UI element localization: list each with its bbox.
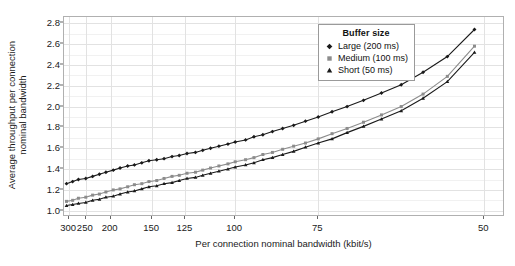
triangle-marker-icon <box>324 65 335 76</box>
y-axis-tick-label: 1.2 <box>34 183 60 194</box>
data-point-marker <box>217 144 221 148</box>
data-point-marker <box>177 154 181 158</box>
data-point-marker <box>345 105 349 109</box>
chart-figure: Average throughput per connection nomina… <box>0 0 515 266</box>
data-point-marker <box>201 169 204 172</box>
x-axis-tick-mark <box>151 216 152 219</box>
data-point-marker <box>252 135 256 139</box>
data-point-marker <box>281 127 285 131</box>
data-point-marker <box>178 174 181 177</box>
y-axis-tick-label: 1.4 <box>34 163 60 174</box>
y-axis-tick-label: 1.6 <box>34 142 60 153</box>
data-point-marker <box>400 105 403 108</box>
x-axis-tick-mark <box>234 216 235 219</box>
data-point-marker <box>226 142 230 146</box>
data-point-marker <box>77 197 80 200</box>
data-point-marker <box>155 158 159 162</box>
data-point-marker <box>65 182 69 186</box>
diamond-marker-icon <box>324 41 335 52</box>
legend-item-label: Short (50 ms) <box>338 65 393 75</box>
legend-item-label: Large (200 ms) <box>338 41 399 51</box>
legend-item-1[interactable]: Large (200 ms) <box>324 40 408 52</box>
x-axis-tick-label: 250 <box>77 222 93 233</box>
data-point-marker <box>304 119 308 123</box>
x-axis-title: Per connection nominal bandwidth (kbit/s… <box>63 238 504 249</box>
x-axis-tick-label: 125 <box>176 222 192 233</box>
data-point-marker <box>380 113 383 116</box>
data-point-marker <box>330 110 334 114</box>
data-point-marker <box>317 137 320 140</box>
data-point-marker <box>126 185 129 188</box>
x-axis-tick-label: 150 <box>143 222 159 233</box>
legend-item-label: Medium (100 ms) <box>338 53 408 63</box>
data-point-marker <box>71 180 75 184</box>
data-point-marker <box>65 200 68 203</box>
data-point-marker <box>194 150 198 154</box>
legend-item-2[interactable]: Medium (100 ms) <box>324 52 408 64</box>
legend-items: Large (200 ms)Medium (100 ms)Short (50 m… <box>324 40 408 76</box>
data-point-marker <box>244 138 248 142</box>
x-axis-tick-mark <box>68 216 69 219</box>
data-point-marker <box>119 187 122 190</box>
x-axis-tick-mark <box>85 216 86 219</box>
square-marker-icon <box>324 53 335 64</box>
data-point-marker <box>104 191 107 194</box>
y-axis-tick-label: 1.0 <box>34 204 60 215</box>
data-point-marker <box>226 162 229 165</box>
data-point-marker <box>155 179 158 182</box>
legend-item-3[interactable]: Short (50 ms) <box>324 64 408 76</box>
data-point-marker <box>91 194 94 197</box>
x-axis-tick-mark <box>483 216 484 219</box>
data-point-marker <box>261 153 264 156</box>
data-point-marker <box>331 132 334 135</box>
data-point-marker <box>422 93 425 96</box>
y-axis-tick-label: 2.6 <box>34 38 60 49</box>
data-point-marker <box>346 127 349 130</box>
data-point-marker <box>171 175 174 178</box>
data-point-marker <box>147 159 151 163</box>
data-point-marker <box>126 164 130 168</box>
data-point-marker <box>233 140 237 144</box>
data-point-marker <box>98 193 101 196</box>
data-point-marker <box>140 182 143 185</box>
y-axis-title-line2: nominal bandwidth <box>17 41 28 189</box>
y-axis-title-line1: Average throughput per connection <box>6 41 17 189</box>
data-point-marker <box>140 161 144 165</box>
data-point-marker <box>380 91 384 95</box>
data-point-marker <box>292 123 296 127</box>
x-axis-tick-label: 200 <box>102 222 118 233</box>
x-axis-tick-mark <box>110 216 111 219</box>
plot-area <box>63 16 504 216</box>
data-point-marker <box>217 164 220 167</box>
data-point-marker <box>446 75 449 78</box>
data-point-marker <box>209 146 213 150</box>
y-axis-tick-label: 2.4 <box>34 58 60 69</box>
data-point-marker <box>111 168 115 172</box>
data-point-marker <box>209 167 212 170</box>
data-point-marker <box>261 133 265 137</box>
y-axis-tick-label: 2.8 <box>34 17 60 28</box>
x-axis-tick-labels: 3002502001501251007550 <box>0 216 515 238</box>
data-point-marker <box>91 174 95 178</box>
data-point-marker <box>194 171 197 174</box>
data-point-marker <box>163 177 166 180</box>
data-point-marker <box>71 199 74 202</box>
legend: Buffer size Large (200 ms)Medium (100 ms… <box>318 24 415 81</box>
data-point-marker <box>281 148 284 151</box>
data-point-marker <box>201 148 205 152</box>
data-point-marker <box>132 163 136 167</box>
data-point-marker <box>316 115 320 119</box>
data-point-marker <box>244 158 247 161</box>
data-point-marker <box>292 145 295 148</box>
data-point-marker <box>104 170 108 174</box>
series-lines <box>64 17 504 216</box>
data-point-marker <box>185 152 189 156</box>
y-axis-tick-label: 2.0 <box>34 100 60 111</box>
data-point-marker <box>304 142 307 145</box>
x-axis-tick-label: 50 <box>478 222 489 233</box>
data-point-marker <box>234 160 237 163</box>
y-axis-tick-label: 2.2 <box>34 79 60 90</box>
x-axis-tick-label: 100 <box>226 222 242 233</box>
data-point-marker <box>97 172 101 176</box>
data-point-marker <box>84 177 88 181</box>
